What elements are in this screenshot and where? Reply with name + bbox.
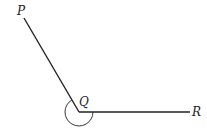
segment-pq — [24, 18, 79, 112]
angle-diagram: P Q R — [0, 0, 207, 133]
point-label-p: P — [16, 4, 26, 18]
point-label-q: Q — [79, 95, 89, 109]
point-label-r: R — [191, 105, 201, 119]
